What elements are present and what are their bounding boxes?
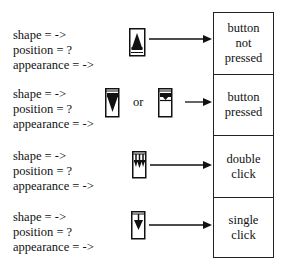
row1-spec: shape = -> position = ? appearance = -> — [13, 28, 94, 73]
box4-line2: click — [229, 228, 259, 243]
box-button-pressed: button pressed — [214, 74, 273, 135]
double-click-arrow-icon — [132, 151, 147, 179]
row2-spec: shape = -> position = ? appearance = -> — [13, 87, 94, 132]
or-label: or — [133, 95, 143, 110]
scroll-arrow-up-filled-icon — [129, 28, 146, 57]
scroll-box-pressed-top-icon — [158, 88, 173, 118]
scroll-arrow-down-pressed-icon — [105, 88, 120, 118]
row3-appearance: appearance = -> — [13, 179, 94, 194]
box3-line2: click — [226, 167, 260, 182]
box2-line1: button — [225, 90, 263, 105]
row1-appearance: appearance = -> — [13, 58, 94, 73]
row1-shape: shape = -> — [13, 28, 94, 43]
arrow-row3 — [150, 160, 213, 170]
box-double-click: double click — [214, 135, 273, 197]
single-click-arrow-icon — [131, 211, 146, 240]
box3-line1: double — [226, 152, 260, 167]
box-button-not-pressed: button not pressed — [214, 13, 273, 74]
box-single-click: single click — [214, 197, 273, 257]
arrow-row2 — [185, 97, 213, 107]
row3-position: position = ? — [13, 164, 94, 179]
box2-line2: pressed — [225, 105, 263, 120]
row2-appearance: appearance = -> — [13, 117, 94, 132]
row4-appearance: appearance = -> — [13, 240, 94, 255]
box4-line1: single — [229, 213, 259, 228]
row4-position: position = ? — [13, 225, 94, 240]
row3-spec: shape = -> position = ? appearance = -> — [13, 149, 94, 194]
row1-position: position = ? — [13, 43, 94, 58]
box1-line2: not — [225, 36, 263, 51]
arrow-row1 — [149, 34, 213, 44]
box1-line1: button — [225, 21, 263, 36]
row2-shape: shape = -> — [13, 87, 94, 102]
row2-position: position = ? — [13, 102, 94, 117]
row4-shape: shape = -> — [13, 210, 94, 225]
arrow-row4 — [149, 220, 213, 230]
row4-spec: shape = -> position = ? appearance = -> — [13, 210, 94, 255]
row3-shape: shape = -> — [13, 149, 94, 164]
meaning-boxes: button not pressed button pressed double… — [213, 12, 274, 258]
box1-line3: pressed — [225, 51, 263, 66]
